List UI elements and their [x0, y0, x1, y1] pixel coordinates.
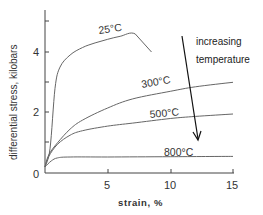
y-ticks — [45, 21, 49, 142]
stress-strain-chart: 4 2 0 5 10 15 strain, % differential str… — [0, 0, 263, 215]
increasing-temperature-arrow-icon — [182, 36, 201, 140]
y-axis-label: differential stress, kilobars — [8, 45, 19, 160]
curve-300c — [45, 82, 233, 167]
curve-800c — [45, 156, 233, 167]
label-25c: 25°C — [98, 21, 123, 36]
curve-25c — [45, 33, 152, 167]
curve-500c — [45, 114, 233, 167]
y-tick-label-4: 4 — [33, 46, 39, 58]
annotation-temperature: temperature — [196, 54, 250, 65]
x-axis-label: strain, % — [118, 197, 163, 208]
x-tick-label-15: 15 — [226, 179, 238, 191]
x-tick-label-10: 10 — [164, 179, 176, 191]
x-tick-label-5: 5 — [104, 179, 110, 191]
y-tick-label-0: 0 — [33, 168, 39, 180]
y-tick-label-2: 2 — [33, 106, 39, 118]
label-300c: 300°C — [140, 73, 171, 90]
label-800c: 800°C — [164, 146, 194, 158]
annotation-increasing: increasing — [196, 36, 242, 47]
x-ticks — [108, 169, 233, 173]
